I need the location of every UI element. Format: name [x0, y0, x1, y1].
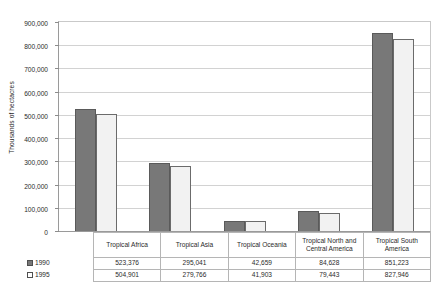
y-axis-tick-label: 400,000	[24, 136, 48, 143]
bar-1995-3	[245, 221, 266, 231]
bar-group-2	[133, 22, 207, 231]
empty-white-square-icon	[27, 272, 33, 278]
bar-1990-3	[224, 221, 245, 231]
bar-group-4	[282, 22, 356, 231]
y-axis-tick-label: 600,000	[24, 89, 48, 96]
table-cell-1995-2: 279,766	[161, 270, 228, 282]
bar-chart-figure: Thousands of hectacres 900,000800,000700…	[0, 0, 446, 291]
bar-1995-5	[393, 39, 414, 231]
table-header-row: Tropical AfricaTropical AsiaTropical Oce…	[26, 233, 431, 258]
y-axis-tick-label: 300,000	[24, 159, 48, 166]
legend-entry-1995: 1995	[26, 270, 93, 282]
table-cell-1990-4: 84,628	[296, 258, 363, 270]
y-axis-title-label: Thousands of hectacres	[8, 81, 15, 154]
table-cell-1995-1: 504,901	[93, 270, 160, 282]
bar-1995-1	[96, 114, 117, 231]
table-row: 1990523,376295,04142,65984,628851,223	[26, 258, 431, 270]
y-axis-tick-label: 200,000	[24, 182, 48, 189]
table-cell-1995-5: 827,946	[363, 270, 430, 282]
table-body: 1990523,376295,04142,65984,628851,223199…	[26, 258, 431, 282]
table-column-header-2: Tropical Asia	[161, 233, 228, 258]
bar-1995-4	[319, 213, 340, 231]
table-cell-1995-3: 41,903	[228, 270, 295, 282]
filled-gray-square-icon	[27, 260, 33, 266]
table-cell-1990-5: 851,223	[363, 258, 430, 270]
bars-layer	[59, 22, 430, 231]
table-column-header-3: Tropical Oceania	[228, 233, 295, 258]
legend-label-1995: 1995	[35, 271, 50, 278]
y-axis-tick-label: 100,000	[24, 205, 48, 212]
table-cell-1990-1: 523,376	[93, 258, 160, 270]
y-axis-tick-label: 800,000	[24, 43, 48, 50]
y-axis-tick-label: 900,000	[24, 20, 48, 27]
legend-label-1990: 1990	[35, 259, 50, 266]
legend-entry-1990: 1990	[26, 258, 93, 270]
table-cell-1990-3: 42,659	[228, 258, 295, 270]
bar-group-1	[59, 22, 133, 231]
y-axis-title: Thousands of hectacres	[4, 0, 18, 235]
bar-group-5	[356, 22, 430, 231]
bar-1990-4	[298, 211, 319, 231]
bar-1990-1	[75, 109, 96, 231]
plot-area: 900,000800,000700,000600,000500,000400,0…	[58, 21, 431, 232]
table-cell-1990-2: 295,041	[161, 258, 228, 270]
bar-1990-5	[372, 33, 393, 231]
table-row: 1995504,901279,76641,90379,443827,946	[26, 270, 431, 282]
y-axis-tick-label: 700,000	[24, 66, 48, 73]
table-corner-cell	[26, 233, 93, 258]
bar-1990-2	[149, 163, 170, 232]
bar-1995-2	[170, 166, 191, 231]
table-cell-1995-4: 79,443	[296, 270, 363, 282]
table-column-header-1: Tropical Africa	[93, 233, 160, 258]
bar-group-3	[207, 22, 281, 231]
table-column-header-5: Tropical South America	[363, 233, 430, 258]
data-table: Tropical AfricaTropical AsiaTropical Oce…	[26, 232, 431, 282]
y-axis-tick-label: 500,000	[24, 112, 48, 119]
table-column-header-4: Tropical North and Central America	[296, 233, 363, 258]
